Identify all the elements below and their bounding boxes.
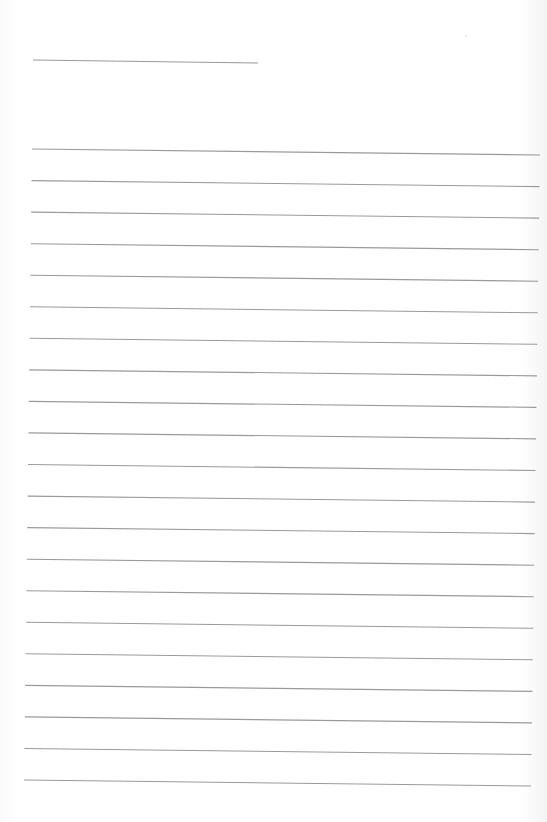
ruled-line xyxy=(28,465,536,471)
ruled-line xyxy=(28,433,536,439)
header-name-line xyxy=(33,60,258,63)
ruled-line xyxy=(25,717,532,723)
ruled-line xyxy=(27,528,534,534)
ruled-line xyxy=(31,212,539,218)
ruled-line xyxy=(29,401,537,407)
ruled-line xyxy=(27,559,534,565)
ruled-line xyxy=(32,181,540,187)
ruled-line xyxy=(31,244,539,250)
ruled-line xyxy=(29,370,537,376)
ruled-line xyxy=(26,622,533,628)
ruled-lines-canvas xyxy=(0,0,547,822)
ruled-line xyxy=(30,338,538,344)
ruled-line xyxy=(25,685,532,691)
ruled-lines-group xyxy=(24,149,540,786)
ruled-line xyxy=(30,275,538,281)
lined-paper-page xyxy=(0,0,547,822)
paper-speck xyxy=(465,35,467,37)
ruled-line xyxy=(32,149,540,155)
ruled-line xyxy=(24,780,531,786)
ruled-line xyxy=(28,496,535,502)
ruled-line xyxy=(26,591,533,597)
ruled-line xyxy=(26,654,533,660)
ruled-line xyxy=(24,749,531,755)
ruled-line xyxy=(30,307,538,313)
